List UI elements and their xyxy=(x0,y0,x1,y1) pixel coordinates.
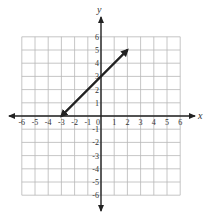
y-tick-label: 4 xyxy=(95,59,99,68)
y-tick-label: -4 xyxy=(92,165,99,174)
x-tick-label: -1 xyxy=(84,118,91,127)
y-tick-label: 2 xyxy=(95,86,99,95)
x-tick-label: 5 xyxy=(165,118,169,127)
y-tick-label: -6 xyxy=(92,191,99,200)
x-tick-label: 1 xyxy=(112,118,116,127)
x-tick-label: 4 xyxy=(152,118,156,127)
y-tick-label: -1 xyxy=(92,125,99,134)
x-tick-label: 2 xyxy=(125,118,129,127)
x-tick-label: -5 xyxy=(32,118,39,127)
x-tick-label: -2 xyxy=(71,118,78,127)
y-tick-label: 6 xyxy=(95,33,99,42)
y-axis-label: y xyxy=(96,4,102,15)
y-tick-label: -2 xyxy=(92,138,99,147)
x-tick-label: -6 xyxy=(18,118,25,127)
coordinate-plane: -6-5-4-3-2-10123456-6-5-4-3-2-1123456 x … xyxy=(0,0,210,214)
x-tick-label: -3 xyxy=(58,118,65,127)
x-tick-label: 6 xyxy=(178,118,182,127)
x-tick-label: 3 xyxy=(139,118,143,127)
y-tick-label: 5 xyxy=(95,46,99,55)
y-tick-label: -5 xyxy=(92,178,99,187)
y-tick-label: -3 xyxy=(92,152,99,161)
x-axis-label: x xyxy=(197,110,203,121)
x-tick-label: -4 xyxy=(45,118,52,127)
y-tick-label: 1 xyxy=(95,99,99,108)
